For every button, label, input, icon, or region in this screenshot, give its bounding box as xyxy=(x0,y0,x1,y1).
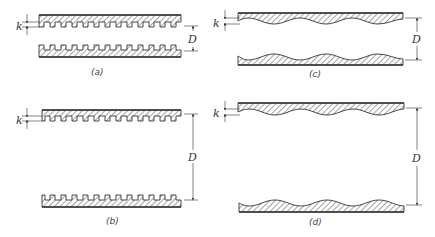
k-dimension-d: k xyxy=(213,101,240,122)
top-wall-wavy xyxy=(238,13,403,24)
panel-c: k D (c) xyxy=(213,10,422,79)
panel-a: k D (a) xyxy=(16,14,198,77)
bottom-wall-wavy xyxy=(238,54,403,65)
caption-b: (b) xyxy=(106,216,119,226)
panel-d: k D (d) xyxy=(213,101,422,227)
roughness-diagram: k D (a) k D (b) xyxy=(0,0,435,237)
k-dimension-c: k xyxy=(213,10,240,31)
d-dimension-c: D xyxy=(405,18,422,60)
k-dimension-a: k xyxy=(16,14,40,35)
bottom-wall-wavy xyxy=(239,200,404,212)
d-label: D xyxy=(411,33,421,46)
top-wall-wavy xyxy=(238,103,404,115)
d-dimension-b: D xyxy=(184,114,198,200)
d-label: D xyxy=(187,33,197,46)
top-wall-square-rib xyxy=(42,110,181,121)
caption-a: (a) xyxy=(91,67,104,77)
k-label: k xyxy=(213,107,220,120)
d-dimension-a: D xyxy=(184,26,198,51)
k-label: k xyxy=(213,17,220,30)
bottom-wall-square-rib xyxy=(42,195,181,207)
k-label: k xyxy=(16,114,23,127)
k-dimension-b: k xyxy=(16,108,42,129)
panel-b: k D (b) xyxy=(16,108,198,226)
d-dimension-d: D xyxy=(406,108,422,205)
caption-d: (d) xyxy=(309,217,322,227)
d-label: D xyxy=(187,151,197,164)
bottom-wall-square-rib xyxy=(39,45,181,57)
k-label: k xyxy=(16,20,23,33)
d-label: D xyxy=(411,152,421,165)
top-wall-square-rib xyxy=(39,15,181,27)
caption-c: (c) xyxy=(309,69,321,79)
